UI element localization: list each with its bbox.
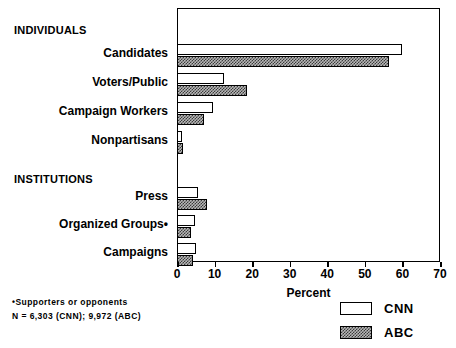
bar-press-abc (177, 199, 207, 210)
group-heading-institutions: INSTITUTIONS (14, 173, 93, 185)
category-label-press: Press (135, 189, 168, 203)
legend-label-abc: ABC (384, 325, 414, 340)
category-label-column: INDIVIDUALS Candidates Voters/Public Cam… (0, 8, 172, 262)
bar-organized-groups-cnn (177, 215, 195, 226)
bar-campaign-workers-abc (177, 114, 204, 125)
bar-campaign-workers-cnn (177, 102, 213, 113)
x-tick-label-40: 40 (321, 267, 334, 281)
category-label-organized-groups: Organized Groups• (59, 217, 168, 231)
bar-candidates-abc (177, 56, 389, 67)
bar-organized-groups-abc (177, 227, 191, 238)
bar-campaigns-cnn (177, 243, 196, 254)
x-axis-ticks: 010203040506070 (177, 262, 440, 276)
bar-nonpartisans-cnn (177, 131, 182, 142)
category-label-voters-public: Voters/Public (92, 75, 168, 89)
bar-voters-public-cnn (177, 73, 224, 84)
legend-item-cnn: CNN (340, 299, 414, 318)
category-label-campaign-workers: Campaign Workers (59, 104, 168, 118)
x-tick-label-10: 10 (208, 267, 221, 281)
legend-swatch-cnn-icon (340, 302, 372, 315)
category-label-campaigns: Campaigns (103, 245, 168, 259)
x-tick-label-70: 70 (433, 267, 446, 281)
bar-nonpartisans-abc (177, 143, 183, 154)
category-label-nonpartisans: Nonpartisans (91, 133, 168, 147)
footnote-line-2: N = 6,303 (CNN); 9,972 (ABC) (12, 309, 141, 323)
legend-item-abc: ABC (340, 323, 414, 342)
chart-root: INDIVIDUALS Candidates Voters/Public Cam… (0, 0, 456, 348)
bar-candidates-cnn (177, 44, 402, 55)
bar-press-cnn (177, 187, 198, 198)
legend-label-cnn: CNN (384, 301, 414, 316)
x-tick-label-30: 30 (283, 267, 296, 281)
group-heading-individuals: INDIVIDUALS (14, 24, 86, 36)
footnote: •Supporters or opponents N = 6,303 (CNN)… (12, 295, 141, 323)
x-tick-label-50: 50 (358, 267, 371, 281)
footnote-line-1: •Supporters or opponents (12, 295, 141, 309)
bar-voters-public-abc (177, 85, 247, 96)
legend-swatch-abc-icon (340, 326, 372, 339)
category-label-candidates: Candidates (103, 46, 168, 60)
legend: CNN ABC (340, 299, 414, 347)
x-tick-label-20: 20 (245, 267, 258, 281)
x-tick-label-0: 0 (174, 267, 181, 281)
x-axis-title: Percent (177, 286, 440, 300)
x-tick-label-60: 60 (396, 267, 409, 281)
bars-layer (177, 8, 440, 262)
